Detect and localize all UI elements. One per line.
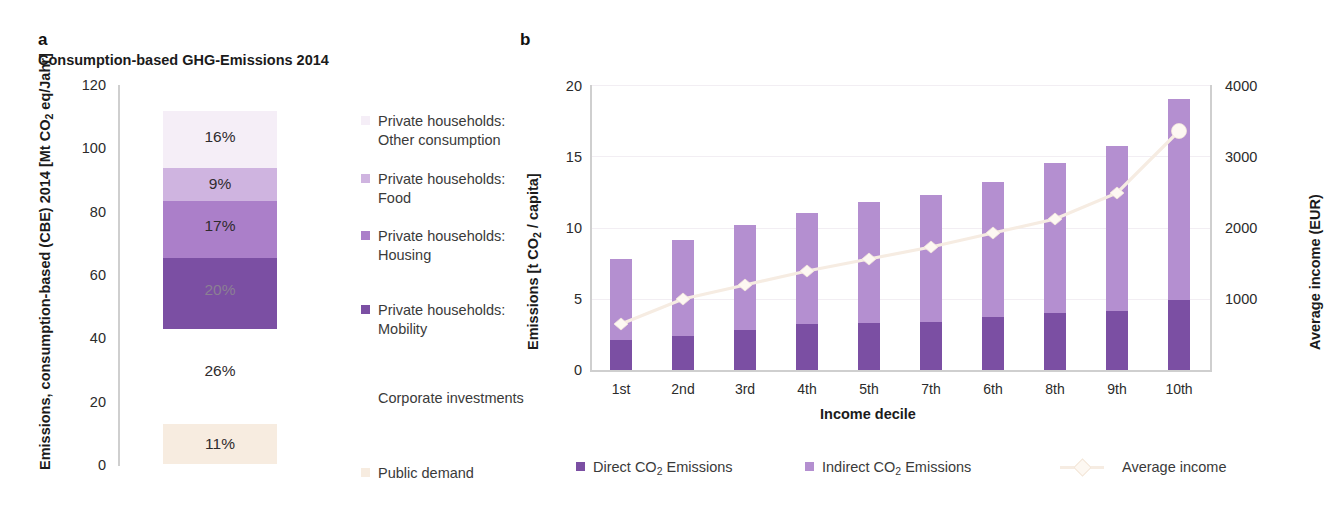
panel-a-ytick-0: 0 (60, 457, 106, 473)
panel-a-y-axis-line (118, 85, 120, 466)
legend-label-direct-co2: Direct CO2 Emissions (593, 458, 733, 478)
legend-swatch-icon-public-demand (361, 468, 370, 477)
panel-b-xtick-9th: 9th (1086, 381, 1148, 397)
legend-label-public-demand: Public demand (378, 464, 474, 483)
panel-a-ylabel: Emissions, consumption-based (CBE) 2014 … (36, 50, 55, 470)
panel-a-letter: a (38, 30, 47, 50)
legend-swatch-icon-food (361, 174, 370, 183)
legend-item-direct-co2[interactable]: Direct CO2 Emissions (576, 458, 733, 478)
panel-a-legend: Private households:Other consumption Pri… (361, 112, 526, 482)
average-income-markers (614, 124, 1187, 331)
panel-b-xtick-1st: 1st (590, 381, 652, 397)
panel-b-y-axis-right-line (1210, 85, 1212, 371)
panel-b-xtick-6th: 6th (962, 381, 1024, 397)
panel-a-title: Consumption-based GHG-Emissions 2014 (38, 52, 329, 68)
panel-b-bars (590, 85, 1210, 370)
legend-item-average-income[interactable]: Average income (1060, 458, 1227, 477)
legend-swatch-icon-direct-co2 (576, 462, 585, 471)
panel-a-ytick-80: 80 (60, 204, 106, 220)
panel-b-xtick-5th: 5th (838, 381, 900, 397)
panel-b-xtick-8th: 8th (1024, 381, 1086, 397)
average-income-line (590, 85, 1210, 370)
legend-swatch-icon-housing (361, 231, 370, 240)
panel-b-xtick-2nd: 2nd (652, 381, 714, 397)
legend-item-indirect-co2[interactable]: Indirect CO2 Emissions (805, 458, 971, 478)
panel-a-ytick-100: 100 (60, 140, 106, 156)
panel-b-xtick-10th: 10th (1148, 381, 1210, 397)
legend-item-mobility[interactable]: Private households:Mobility (361, 301, 526, 339)
panel-a-ytick-40: 40 (60, 330, 106, 346)
panel-b-xtick-4th: 4th (776, 381, 838, 397)
figure-root: a Consumption-based GHG-Emissions 2014 E… (0, 0, 1330, 510)
legend-swatch-icon-indirect-co2 (805, 462, 814, 471)
panel-b-ytick-0: 0 (534, 362, 582, 378)
legend-item-corporate-investments[interactable]: Corporate investments (361, 389, 526, 408)
legend-swatch-icon-mobility (361, 305, 370, 314)
legend-label-food: Private households:Food (378, 170, 505, 208)
legend-swatch-icon-other-consumption (361, 116, 370, 125)
panel-b-letter: b (520, 30, 530, 50)
panel-b-ylabel-right: Average income (EUR) (1306, 50, 1324, 350)
legend-label-corporate-investments: Corporate investments (378, 389, 524, 408)
legend-item-food[interactable]: Private households:Food (361, 170, 526, 208)
legend-item-other-consumption[interactable]: Private households:Other consumption (361, 112, 526, 150)
bar-label-corporate-investments: 26% (163, 362, 277, 380)
panel-b-ytick-right-2000: 2000 (1225, 220, 1295, 236)
legend-item-housing[interactable]: Private households:Housing (361, 227, 526, 265)
legend-label-other-consumption: Private households:Other consumption (378, 112, 505, 150)
legend-diamond-marker-icon (1073, 458, 1091, 476)
panel-b-ytick-right-1000: 1000 (1225, 291, 1295, 307)
panel-b-x-axis-line (590, 370, 1212, 372)
legend-item-public-demand[interactable]: Public demand (361, 464, 526, 483)
bar-label-housing: 17% (163, 217, 277, 235)
legend-label-mobility: Private households:Mobility (378, 301, 505, 339)
legend-label-housing: Private households:Housing (378, 227, 505, 265)
panel-b-ytick-20: 20 (534, 78, 582, 94)
panel-b-xtick-7th: 7th (900, 381, 962, 397)
panel-b: b Emissions [t CO2 / capita] Average inc… (520, 0, 1330, 510)
panel-a: a Consumption-based GHG-Emissions 2014 E… (0, 0, 520, 510)
panel-a-ytick-60: 60 (60, 267, 106, 283)
panel-b-ytick-10: 10 (534, 220, 582, 236)
panel-b-legend: Direct CO2 Emissions Indirect CO2 Emissi… (520, 458, 1330, 482)
panel-b-ytick-15: 15 (534, 149, 582, 165)
panel-b-ytick-right-3000: 3000 (1225, 149, 1295, 165)
legend-label-average-income: Average income (1122, 458, 1227, 477)
panel-b-xlabel: Income decile (820, 406, 916, 422)
panel-a-stacked-bar: 11% 26% 20% 17% 9% 16% (163, 85, 277, 466)
bar-label-other-consumption: 16% (163, 128, 277, 146)
panel-a-ytick-20: 20 (60, 394, 106, 410)
bar-label-public-demand: 11% (163, 435, 277, 453)
panel-b-ytick-right-4000: 4000 (1225, 78, 1295, 94)
bar-label-food: 9% (163, 175, 277, 193)
legend-swatch-icon-corporate-investments (361, 393, 370, 402)
bar-label-mobility: 20% (163, 281, 277, 299)
panel-b-ytick-5: 5 (534, 291, 582, 307)
legend-label-indirect-co2: Indirect CO2 Emissions (822, 458, 971, 478)
panel-b-xtick-3rd: 3rd (714, 381, 776, 397)
average-income-polyline (621, 131, 1179, 324)
panel-a-ytick-120: 120 (60, 77, 106, 93)
